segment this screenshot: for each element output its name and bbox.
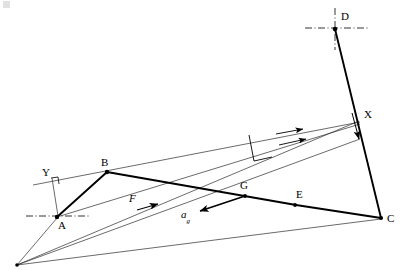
diagram-canvas: D X B Y A F ag G E C — [0, 0, 407, 270]
baseline-y-to-x — [33, 122, 360, 185]
label-force-f: F — [129, 193, 136, 204]
line-y-to-a — [52, 178, 58, 216]
label-accel-ag-main: a — [181, 208, 187, 220]
label-point-e: E — [296, 189, 303, 200]
link-d-c — [335, 29, 381, 218]
joint-dot-e — [293, 203, 297, 207]
ray-origin-to-x-lower — [17, 139, 360, 265]
label-accel-ag: ag — [181, 209, 190, 223]
joint-dot-origin — [15, 263, 19, 267]
joint-dot-d — [333, 27, 338, 32]
label-point-d: D — [341, 11, 349, 22]
joint-dots — [15, 27, 383, 267]
link-e-c — [296, 205, 381, 218]
label-accel-ag-sub: g — [187, 217, 191, 225]
label-point-c: C — [387, 213, 394, 224]
joint-dot-c — [379, 216, 383, 220]
right-angle-marks — [51, 135, 272, 184]
label-point-a: A — [58, 220, 66, 231]
vector-arrow-ag — [200, 196, 245, 211]
construction-lines — [17, 121, 381, 265]
joint-dot-b — [105, 170, 109, 174]
label-point-g: G — [240, 180, 248, 191]
label-point-b: B — [101, 157, 108, 168]
line-a-through-g-to-x — [57, 124, 360, 217]
label-point-x: X — [364, 109, 372, 120]
link-members — [57, 29, 381, 218]
label-point-y: Y — [42, 167, 50, 178]
vector-arrow-upper-bx — [276, 129, 303, 134]
center-marks — [26, 8, 368, 216]
